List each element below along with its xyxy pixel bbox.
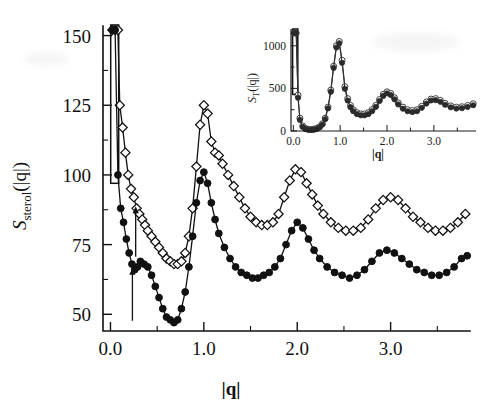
svg-text:Ssterol(|q|): Ssterol(|q|) bbox=[9, 162, 34, 230]
main-y-axis-title: Ssterol(|q|) bbox=[9, 162, 34, 230]
data-point bbox=[377, 98, 382, 103]
inset-x-tick-label: 3.0 bbox=[427, 135, 442, 147]
data-point bbox=[120, 219, 127, 226]
data-point bbox=[297, 117, 302, 122]
main-y-tick-label: 50 bbox=[72, 304, 91, 325]
inset-x-tick-label: 2.0 bbox=[380, 135, 395, 147]
data-point bbox=[320, 122, 325, 127]
series-line-st-open-circles bbox=[294, 33, 473, 130]
data-point bbox=[376, 250, 383, 257]
data-point bbox=[193, 199, 200, 206]
data-point bbox=[123, 236, 130, 243]
data-point bbox=[203, 109, 212, 118]
main-x-tick-label: 1.0 bbox=[192, 338, 216, 359]
inset-y-title-arg: (|q|) bbox=[245, 73, 259, 92]
data-point bbox=[406, 261, 413, 268]
main-y-title-arg: (|q|) bbox=[9, 162, 31, 192]
data-point bbox=[221, 244, 228, 251]
data-point bbox=[391, 250, 398, 257]
data-point bbox=[288, 227, 295, 234]
data-point bbox=[159, 305, 166, 312]
main-y-tick-label: 100 bbox=[63, 165, 92, 186]
data-point bbox=[383, 247, 390, 254]
data-point bbox=[471, 103, 476, 108]
data-point bbox=[438, 99, 443, 104]
inset-y-tick-label: 1000 bbox=[263, 40, 286, 52]
data-point bbox=[337, 41, 342, 46]
data-point bbox=[339, 60, 344, 65]
data-point bbox=[274, 209, 283, 218]
main-y-tick-label: 150 bbox=[63, 26, 92, 47]
data-point bbox=[229, 181, 238, 190]
data-point bbox=[204, 180, 211, 187]
svg-text:ST(|q|): ST(|q|) bbox=[245, 73, 261, 103]
inset-axes-group bbox=[291, 29, 476, 131]
data-point bbox=[240, 204, 249, 213]
data-point bbox=[331, 65, 336, 70]
data-point bbox=[323, 117, 328, 122]
inset-x-tick-label: 1.0 bbox=[333, 135, 348, 147]
data-point bbox=[266, 269, 273, 276]
data-point bbox=[361, 266, 368, 273]
main-x-tick-label: 0.0 bbox=[99, 338, 123, 359]
data-point bbox=[283, 241, 290, 248]
series-line-st-filled-circles bbox=[294, 33, 473, 130]
data-point bbox=[373, 104, 378, 109]
data-point bbox=[156, 294, 163, 301]
data-point bbox=[192, 162, 201, 171]
data-point bbox=[218, 159, 227, 168]
data-point bbox=[392, 97, 397, 102]
data-point bbox=[148, 272, 155, 279]
data-point bbox=[186, 263, 193, 270]
data-point bbox=[316, 255, 323, 262]
data-point bbox=[346, 275, 353, 282]
data-point bbox=[308, 190, 317, 199]
inset-y-tick-label: 500 bbox=[269, 82, 287, 94]
data-point bbox=[121, 148, 130, 157]
inset-axis-lines bbox=[291, 29, 476, 131]
figure-canvas: 50751001251500.01.02.03.0 Ssterol(|q|) |… bbox=[0, 0, 489, 405]
data-point bbox=[345, 98, 350, 103]
data-point bbox=[235, 193, 244, 202]
data-point bbox=[197, 177, 204, 184]
data-point bbox=[398, 255, 405, 262]
data-point bbox=[199, 101, 208, 110]
inset-y-axis-title: ST(|q|) bbox=[245, 73, 261, 103]
data-point bbox=[124, 170, 133, 179]
data-point bbox=[115, 172, 122, 179]
inset-x-axis-title: |q| bbox=[372, 147, 384, 161]
data-point bbox=[189, 233, 196, 240]
data-point bbox=[295, 95, 300, 100]
data-point bbox=[200, 169, 207, 176]
data-point bbox=[413, 266, 420, 273]
data-point bbox=[388, 92, 393, 97]
main-x-tick-label: 3.0 bbox=[379, 338, 403, 359]
data-point bbox=[181, 248, 190, 257]
data-point bbox=[271, 263, 278, 270]
data-point bbox=[178, 305, 185, 312]
data-point bbox=[305, 236, 312, 243]
main-x-axis-title: |q| bbox=[222, 378, 241, 399]
data-point bbox=[208, 199, 215, 206]
data-point bbox=[212, 216, 219, 223]
data-point bbox=[215, 230, 222, 237]
data-point bbox=[224, 170, 233, 179]
data-point bbox=[144, 263, 151, 270]
data-point bbox=[354, 272, 361, 279]
main-curves-group bbox=[108, 25, 471, 326]
main-plot: 50751001251500.01.02.03.0 bbox=[63, 25, 471, 359]
data-point bbox=[129, 193, 138, 202]
data-point bbox=[324, 263, 331, 270]
data-point bbox=[424, 101, 429, 106]
data-point bbox=[442, 102, 447, 107]
data-point bbox=[117, 205, 124, 212]
data-point bbox=[294, 30, 299, 35]
data-point bbox=[152, 283, 159, 290]
data-point bbox=[299, 224, 306, 231]
data-point bbox=[414, 109, 419, 114]
series-markers-st-open-circles bbox=[291, 30, 476, 132]
data-point bbox=[416, 218, 425, 227]
main-y-tick-label: 125 bbox=[63, 95, 92, 116]
data-point bbox=[419, 105, 424, 110]
data-point bbox=[451, 263, 458, 270]
